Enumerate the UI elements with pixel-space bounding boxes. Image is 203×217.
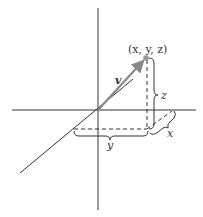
vector-label: v xyxy=(115,74,122,87)
y-component-label: y xyxy=(106,139,114,152)
z-brace xyxy=(149,58,158,129)
diagram-canvas: (x, y, z) v z y x xyxy=(0,0,203,217)
x-component-label: x xyxy=(167,127,174,140)
z-component-label: z xyxy=(160,89,167,102)
x-axis xyxy=(20,79,133,173)
point-xyz xyxy=(143,55,149,61)
diagram-svg: (x, y, z) v z y x xyxy=(0,0,203,217)
point-label: (x, y, z) xyxy=(128,43,167,56)
